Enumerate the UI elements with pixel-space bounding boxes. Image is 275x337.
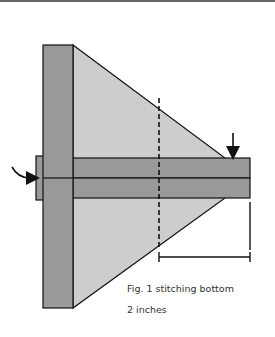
vertical-bar	[43, 45, 73, 308]
horizontal-band-bottom	[73, 178, 250, 198]
horizontal-band-top	[73, 158, 250, 178]
figure-caption: Fig. 1 stitching bottom	[127, 283, 234, 294]
arrow-down-icon	[226, 133, 240, 160]
measurement-label: 2 inches	[127, 304, 167, 315]
